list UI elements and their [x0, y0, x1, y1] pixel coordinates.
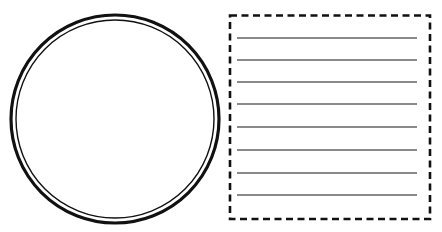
shapes-figure — [0, 0, 442, 232]
outer-circle — [11, 15, 219, 223]
worksheet-canvas — [0, 0, 442, 232]
dashed-border — [230, 16, 430, 220]
writing-lines — [237, 38, 417, 195]
lined-writing-box — [230, 16, 430, 220]
double-circle — [11, 15, 219, 223]
inner-circle — [16, 20, 214, 218]
